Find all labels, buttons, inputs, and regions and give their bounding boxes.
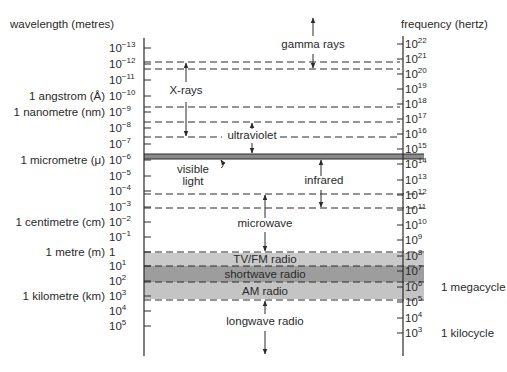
- tick-label: 10−8: [109, 120, 131, 134]
- tick-label: 109: [405, 232, 423, 246]
- wavelength-unit-label: 1 metre (m): [46, 246, 106, 258]
- electromagnetic-spectrum-diagram: 10−1310−1210−1110−101 angstrom (Å)10−91 …: [0, 0, 507, 372]
- tick-label: 1022: [405, 36, 427, 50]
- tick-label: 104: [405, 310, 423, 324]
- tick-label: 1019: [405, 81, 427, 95]
- tick-label: 1013: [405, 172, 427, 186]
- wavelength-unit-label: 1 micrometre (μ): [20, 154, 105, 166]
- tick-label: 1016: [405, 126, 427, 140]
- visible-light-band: [144, 154, 424, 159]
- tick-label: 1: [109, 246, 115, 258]
- band-arrows: [186, 18, 321, 354]
- wavelength-unit-label: 1 kilometre (km): [23, 290, 106, 302]
- band-label: visible: [177, 163, 209, 175]
- wavelength-unit-label: 1 centimetre (cm): [16, 216, 106, 228]
- tick-label: 1011: [405, 202, 427, 216]
- tick-label: 103: [405, 325, 423, 339]
- band-label: X-rays: [169, 84, 202, 96]
- band-label: ultraviolet: [227, 129, 277, 141]
- tick-label: 10−1: [109, 229, 131, 243]
- band-label: shortwave radio: [224, 268, 305, 280]
- tick-label: 102: [109, 273, 127, 287]
- tick-label: 105: [405, 294, 423, 308]
- frequency-unit-label: 1 kilocycle: [441, 327, 494, 339]
- band-label: microwave: [238, 217, 293, 229]
- tick-label: 1021: [405, 51, 427, 65]
- tick-label: 1020: [405, 66, 427, 80]
- tick-label: 10−5: [109, 168, 131, 182]
- tick-label: 1014: [405, 156, 427, 170]
- band-label: gamma rays: [281, 38, 345, 50]
- tick-label: 105: [109, 318, 127, 332]
- tick-label: 10−6: [109, 152, 131, 166]
- tick-label: 103: [109, 288, 127, 302]
- tick-label: 1010: [405, 217, 427, 231]
- tick-label: 10−10: [109, 88, 136, 102]
- tick-label: 10−2: [109, 214, 131, 228]
- tick-label: 104: [109, 303, 127, 317]
- frequency-header: frequency (hertz): [401, 18, 488, 30]
- wavelength-header: wavelength (metres): [9, 18, 114, 30]
- tick-label: 101: [109, 258, 127, 272]
- tick-label: 1017: [405, 111, 427, 125]
- tick-label: 10−12: [109, 56, 136, 70]
- tick-label: 1012: [405, 187, 427, 201]
- tick-label: 10−7: [109, 136, 131, 150]
- band-label: AM radio: [242, 285, 288, 297]
- tick-label: 10−11: [109, 72, 135, 86]
- tick-label: 1015: [405, 141, 427, 155]
- band-label: TV/FM radio: [233, 253, 296, 265]
- tick-label: 10−3: [109, 199, 131, 213]
- wavelength-unit-label: 1 angstrom (Å): [29, 90, 105, 102]
- tick-label: 10−9: [109, 104, 131, 118]
- wavelength-ticks: 10−1310−1210−1110−101 angstrom (Å)10−91 …: [14, 40, 151, 332]
- tick-label: 10−4: [109, 183, 131, 197]
- wavelength-unit-label: 1 nanometre (nm): [14, 106, 106, 118]
- tick-label: 10−13: [109, 40, 136, 54]
- band-label: infrared: [305, 174, 344, 186]
- frequency-unit-label: 1 megacycle: [441, 281, 506, 293]
- band-label: longwave radio: [226, 315, 303, 327]
- tick-label: 1018: [405, 96, 427, 110]
- band-label: light: [182, 175, 204, 187]
